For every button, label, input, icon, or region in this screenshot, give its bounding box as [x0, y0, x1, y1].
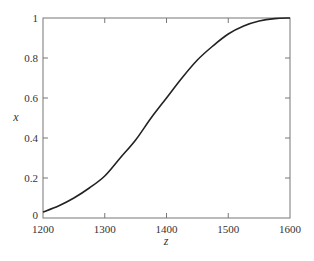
chart: 12001300140015001600 00.20.40.60.81 z x — [0, 0, 314, 261]
y-axis-label: x — [12, 110, 19, 124]
plot-frame — [43, 18, 290, 218]
data-line — [43, 18, 290, 212]
x-axis-ticks: 12001300140015001600 — [32, 18, 302, 235]
x-tick-label: 1600 — [279, 223, 302, 235]
x-tick-label: 1500 — [217, 223, 240, 235]
y-tick-label: 0.8 — [24, 52, 38, 64]
plot-area-border — [43, 18, 290, 218]
y-tick-label: 0 — [33, 209, 39, 221]
y-tick-label: 0.6 — [24, 92, 38, 104]
y-tick-label: 0.2 — [24, 172, 38, 184]
x-tick-label: 1300 — [94, 223, 117, 235]
y-tick-label: 0.4 — [24, 132, 38, 144]
y-axis-ticks: 00.20.40.60.81 — [24, 12, 290, 221]
y-tick-label: 1 — [33, 12, 39, 24]
x-tick-label: 1200 — [32, 223, 55, 235]
x-axis-label: z — [163, 234, 169, 248]
